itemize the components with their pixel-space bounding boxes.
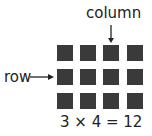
grid-square [57,45,73,61]
grid-square [57,69,73,85]
grid-square [127,69,143,85]
grid-square [127,93,143,109]
row-arrow-icon [30,74,54,80]
grid-square [103,45,119,61]
grid-square [80,45,96,61]
grid-square [103,69,119,85]
grid-square [80,69,96,85]
equation: 3 × 4 = 12 [60,115,142,130]
grid-square [127,45,143,61]
grid-square [103,93,119,109]
grid-square [57,93,73,109]
column-arrow-icon [108,25,114,43]
grid-square [80,93,96,109]
